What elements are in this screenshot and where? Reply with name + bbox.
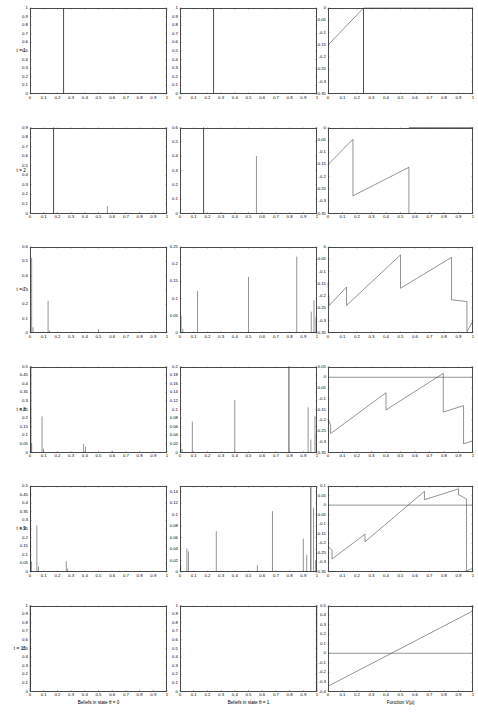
y-ticklabel: -0.2	[319, 670, 326, 674]
x-ticklabel: 0.9	[456, 693, 462, 697]
x-ticklabel: 0.8	[441, 693, 447, 697]
x-ticklabel: 1	[472, 693, 474, 697]
y-ticklabel: 0.4	[320, 613, 326, 617]
x-ticklabel: 0.2	[354, 693, 360, 697]
y-ticklabel: 0.1	[320, 642, 326, 646]
x-ticklabel: 0.6	[412, 693, 418, 697]
x-ticklabel: 0.4	[383, 693, 389, 697]
x-ticklabel: 0.1	[340, 693, 346, 697]
y-axis-ticklabels-r6c3: -0.4-0.3-0.2-0.100.10.20.30.40.5	[312, 0, 326, 717]
x-ticklabel: 0.3	[369, 693, 375, 697]
x-ticklabel: 0.7	[427, 693, 433, 697]
x-axis-title-col-2: Function V(μ)	[328, 701, 473, 706]
figure-panel-grid: t = 100.10.20.30.40.50.60.70.80.9100.10.…	[0, 0, 478, 717]
x-ticklabel: 0.5	[398, 693, 404, 697]
y-ticklabel: 0.5	[320, 603, 326, 607]
y-ticklabel: -0.3	[319, 680, 326, 684]
y-ticklabel: -0.1	[319, 661, 326, 665]
x-ticklabel: 0	[327, 693, 329, 697]
plot-canvas-r6c3	[0, 0, 478, 717]
y-ticklabel: 0.2	[320, 632, 326, 636]
y-ticklabel: 0	[324, 651, 326, 655]
y-ticklabel: 0.3	[320, 622, 326, 626]
y-ticklabel: -0.4	[319, 689, 326, 693]
